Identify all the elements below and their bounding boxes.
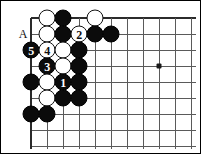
stone-black — [55, 26, 72, 43]
hoshi-icon — [157, 64, 162, 69]
grid-line-vertical — [143, 18, 144, 149]
stone-white — [39, 74, 56, 91]
stone-black-move-3: 3 — [39, 58, 56, 75]
stone-black — [71, 58, 88, 75]
stone-black — [71, 90, 88, 107]
stone-white-move-4: 4 — [39, 42, 56, 59]
stone-black — [103, 26, 120, 43]
stone-move-number: 5 — [28, 44, 34, 56]
grid-line-vertical — [127, 18, 128, 149]
stone-white — [55, 42, 72, 59]
grid-line-horizontal — [31, 114, 196, 115]
grid-line-vertical — [175, 18, 176, 149]
stone-white — [39, 90, 56, 107]
stone-white — [87, 10, 104, 27]
stone-black — [39, 106, 56, 123]
stone-white — [39, 26, 56, 43]
stone-black — [55, 90, 72, 107]
stone-white — [39, 10, 56, 27]
stone-black-move-5: 5 — [23, 42, 40, 59]
stone-move-number: 2 — [76, 28, 82, 40]
stone-move-number: 3 — [44, 60, 50, 72]
grid-line-horizontal — [31, 146, 196, 147]
stone-black — [23, 74, 40, 91]
grid-line-vertical — [191, 18, 192, 149]
stone-black — [55, 10, 72, 27]
go-board-diagram: A 25431 — [0, 0, 201, 154]
stone-move-number: 4 — [44, 44, 50, 56]
grid-line-horizontal — [31, 130, 196, 131]
stone-black — [71, 42, 88, 59]
stone-black-move-1: 1 — [55, 74, 72, 91]
stone-black — [71, 74, 88, 91]
stone-black — [87, 26, 104, 43]
stone-move-number: 1 — [60, 76, 66, 88]
stone-black — [23, 106, 40, 123]
stone-white-move-2: 2 — [71, 26, 88, 43]
stone-white — [55, 58, 72, 75]
point-label-a: A — [19, 28, 28, 40]
grid-line-vertical — [159, 18, 160, 149]
